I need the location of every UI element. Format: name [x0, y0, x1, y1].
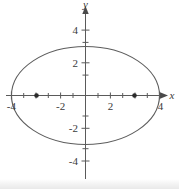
bottom-edge-band — [0, 179, 179, 189]
ellipse-figure: -4 -2 2 4 4 2 -2 -4 x y — [0, 0, 179, 189]
y-tick-label-4: 4 — [73, 24, 79, 36]
coordinate-plane-svg: -4 -2 2 4 4 2 -2 -4 x y — [0, 0, 179, 189]
y-axis-name-label: y — [82, 0, 88, 10]
focus-point-left — [34, 93, 39, 98]
x-tick-label-neg4: -4 — [7, 100, 17, 112]
y-tick-label-neg2: -2 — [69, 122, 78, 134]
focus-point-right — [132, 93, 137, 98]
x-tick-label-2: 2 — [108, 100, 114, 112]
y-tick-label-2: 2 — [73, 57, 79, 69]
x-axis-arrow-icon — [160, 92, 168, 98]
x-tick-label-neg2: -2 — [56, 100, 65, 112]
y-tick-label-neg4: -4 — [69, 155, 79, 167]
x-axis-name-label: x — [169, 89, 175, 101]
x-tick-label-4: 4 — [158, 100, 164, 112]
